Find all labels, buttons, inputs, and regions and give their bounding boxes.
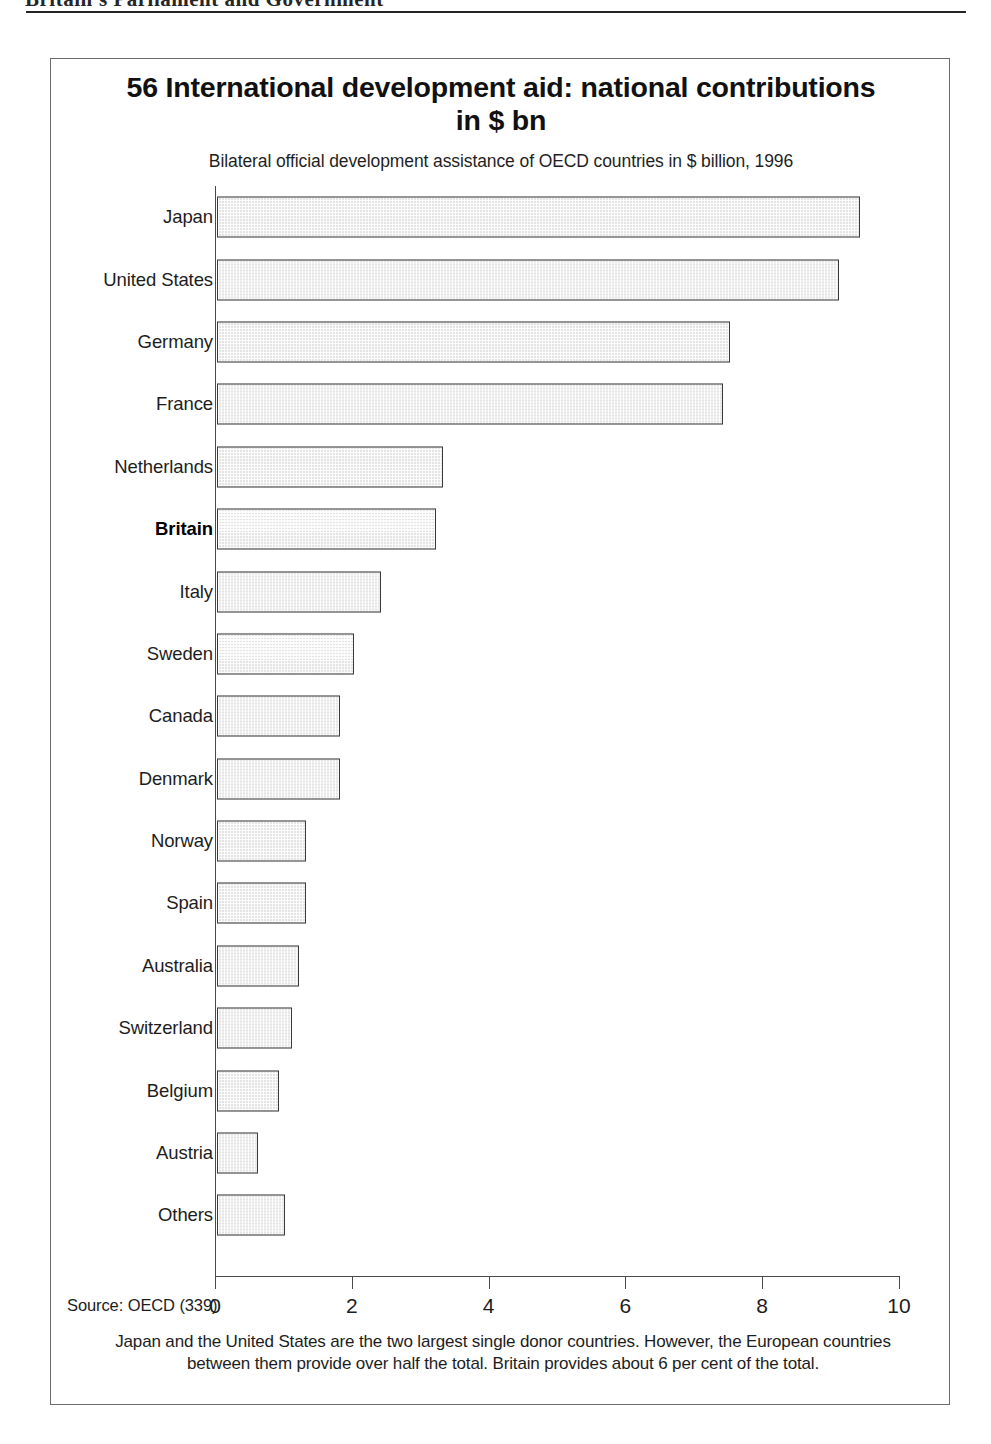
chart-panel: 56 International development aid: nation…	[50, 58, 950, 1405]
bar	[217, 509, 436, 550]
bar-row: Norway	[51, 810, 951, 872]
bar	[217, 1070, 279, 1111]
bar-track	[217, 1133, 258, 1174]
bar-track	[217, 384, 723, 425]
bar-track	[217, 821, 306, 862]
header-rule	[26, 11, 966, 13]
bar-category-label: Britain	[155, 518, 213, 540]
x-axis-tick-label: 6	[620, 1294, 632, 1318]
bar-row: France	[51, 373, 951, 435]
x-axis-tick-label: 10	[887, 1294, 910, 1318]
bar-category-label: Norway	[151, 830, 213, 852]
x-axis-tick	[489, 1276, 490, 1289]
x-axis-tick	[625, 1276, 626, 1289]
chart-subtitle: Bilateral official development assistanc…	[91, 151, 911, 172]
bar-track	[217, 945, 299, 986]
bar-track	[217, 571, 381, 612]
bar	[217, 259, 839, 300]
bar-track	[217, 696, 340, 737]
bar-category-label: Austria	[156, 1142, 213, 1164]
bar-row: Sweden	[51, 623, 951, 685]
bar-category-label: Sweden	[147, 643, 213, 665]
bar	[217, 571, 381, 612]
bar-category-label: Canada	[149, 705, 213, 727]
bar-track	[217, 259, 839, 300]
bar-track	[217, 197, 860, 238]
bar	[217, 1195, 285, 1236]
x-axis-tick-label: 4	[483, 1294, 495, 1318]
bar-category-label: Denmark	[139, 768, 213, 790]
bar-track	[217, 321, 730, 362]
figure-caption: Japan and the United States are the two …	[103, 1331, 903, 1375]
bar-category-label: Belgium	[147, 1080, 213, 1102]
source-note: Source: OECD (339)	[67, 1296, 217, 1315]
bar	[217, 945, 299, 986]
bar	[217, 883, 306, 924]
bar	[217, 758, 340, 799]
bar-chart-plot-area: JapanUnited StatesGermanyFranceNetherlan…	[51, 186, 951, 1276]
bar-row: Austria	[51, 1122, 951, 1184]
bar-row: United States	[51, 248, 951, 310]
bar-row: Britain	[51, 498, 951, 560]
bar	[217, 446, 443, 487]
bar-category-label: Switzerland	[118, 1017, 213, 1039]
bar-category-label: Spain	[166, 892, 213, 914]
x-axis-tick	[215, 1276, 216, 1289]
bar-row: Italy	[51, 560, 951, 622]
bar	[217, 696, 340, 737]
bar-track	[217, 509, 436, 550]
bar	[217, 1008, 292, 1049]
bar-row: Netherlands	[51, 436, 951, 498]
bar-row: Japan	[51, 186, 951, 248]
x-axis-tick	[899, 1276, 900, 1289]
x-axis-tick-label: 8	[756, 1294, 768, 1318]
bar-track	[217, 1008, 292, 1049]
bars-container: JapanUnited StatesGermanyFranceNetherlan…	[51, 186, 951, 1247]
bar-category-label: Netherlands	[114, 456, 213, 478]
bar-track	[217, 633, 354, 674]
bar-category-label: Japan	[163, 206, 213, 228]
bar-track	[217, 758, 340, 799]
bar	[217, 197, 860, 238]
bar-category-label: United States	[103, 269, 213, 291]
x-axis-line	[215, 1276, 899, 1277]
bar-category-label: France	[156, 393, 213, 415]
bar-row: Canada	[51, 685, 951, 747]
bar	[217, 1133, 258, 1174]
bar-category-label: Others	[158, 1204, 213, 1226]
bar	[217, 633, 354, 674]
bar-row: Switzerland	[51, 997, 951, 1059]
bar	[217, 321, 730, 362]
x-axis-tick-label: 2	[346, 1294, 358, 1318]
bar-track	[217, 883, 306, 924]
bar-track	[217, 1195, 285, 1236]
x-axis-tick	[762, 1276, 763, 1289]
bar-category-label: Australia	[142, 955, 213, 977]
bar-category-label: Italy	[180, 581, 213, 603]
bar-row: Belgium	[51, 1059, 951, 1121]
page-running-header: Britain's Parliament and Government	[0, 0, 991, 26]
bar-track	[217, 446, 443, 487]
bar-category-label: Germany	[138, 331, 213, 353]
chart-title: 56 International development aid: nation…	[111, 71, 891, 138]
bar-row: Denmark	[51, 748, 951, 810]
bar-row: Others	[51, 1184, 951, 1246]
bar	[217, 384, 723, 425]
bar-row: Spain	[51, 872, 951, 934]
bar-row: Australia	[51, 935, 951, 997]
bar-row: Germany	[51, 311, 951, 373]
x-axis-tick	[352, 1276, 353, 1289]
bar-track	[217, 1070, 279, 1111]
bar	[217, 821, 306, 862]
